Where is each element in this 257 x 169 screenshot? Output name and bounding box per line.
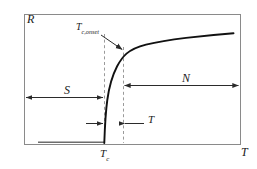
resistance-vs-temperature-figure: R T Tc,onset Tc S N T [0,0,257,169]
tc-label-subscript: c [106,155,109,162]
y-axis-label: R [27,13,34,25]
tc-onset-label: Tc,onset [76,22,99,34]
tc-onset-label-subscript: c,onset [82,28,99,35]
transition-width-label: T [148,114,154,125]
x-axis-label: T [241,146,248,158]
normal-region-label: N [182,72,190,84]
superconducting-region-label: S [64,84,70,96]
tc-tick-label: Tc [100,148,109,162]
tc-onset-label-symbol: T [76,21,82,32]
plot-frame [25,15,241,145]
plot-canvas [0,0,257,169]
